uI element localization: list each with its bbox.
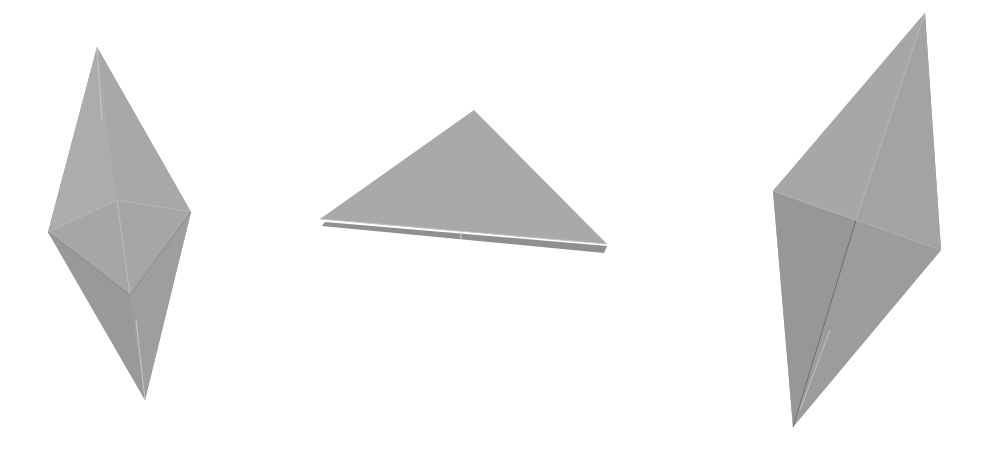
photo-scene [0, 0, 988, 455]
middle-triangle-fold [320, 110, 607, 253]
origami-illustration [0, 0, 988, 455]
left-diamond-fold [48, 47, 191, 400]
right-diamond-fold [773, 13, 941, 427]
